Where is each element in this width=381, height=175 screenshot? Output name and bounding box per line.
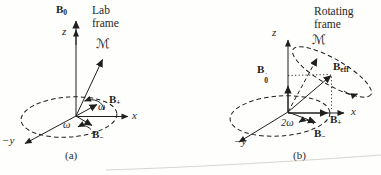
precession-direction-arrow: [344, 91, 358, 95]
page-edge-curve: [106, 155, 381, 170]
x-axis-label-a: x: [132, 110, 137, 121]
b-eff-vector-b: [288, 76, 331, 113]
neg-y-axis-label-a: −y: [2, 135, 14, 146]
x-axis-label-b: x: [351, 106, 356, 117]
two-omega-label: 2ω: [281, 118, 294, 129]
b0-label: B0: [56, 4, 67, 17]
z-axis-label-b: z: [272, 27, 276, 38]
panel-b: [229, 38, 378, 142]
b-minus-label-b: B−: [314, 128, 326, 141]
omega-upper-label: ω: [98, 102, 105, 113]
z-axis-label-a: z: [62, 26, 66, 37]
neg-y-axis-label-b: −y: [234, 136, 246, 147]
panel-b-caption: (b): [293, 150, 306, 161]
panel-a-caption: (a): [65, 150, 77, 161]
lab-frame-label: Lab frame: [92, 4, 138, 30]
omega-lower-label: ω: [63, 120, 70, 131]
b-minus-label-a: B−: [92, 129, 104, 142]
b-minus-vector-a: [76, 116, 92, 126]
b-eff-label: Beff: [333, 61, 349, 74]
b-plus-label-b: B+: [330, 114, 342, 127]
magnetization-label-b: ℳ: [312, 33, 326, 46]
rotating-frame-label: Rotating frame: [314, 5, 362, 31]
omega-rotation-arrow-lower: [78, 126, 91, 130]
precession-cone-ellipse-b: [287, 38, 378, 106]
b-plus-label-a: B+: [109, 94, 121, 107]
panel-a: [20, 21, 128, 144]
construction-line-horizontal: [288, 75, 331, 76]
b0-prime-label: B′0: [257, 64, 268, 84]
nmr-frames-figure: B0 z Lab frame ℳ B+ ω x ω B− −y (a) Rota…: [0, 0, 381, 175]
magnetization-label-a: ℳ: [96, 37, 110, 50]
